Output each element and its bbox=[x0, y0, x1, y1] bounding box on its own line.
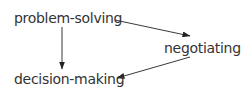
node-problem-solving: problem-solving bbox=[14, 10, 122, 26]
node-negotiating: negotiating bbox=[164, 40, 241, 56]
node-decision-making: decision-making bbox=[14, 71, 124, 87]
arrow-problem-to-negotiating bbox=[115, 20, 190, 36]
arrow-negotiating-to-decision bbox=[117, 57, 190, 78]
